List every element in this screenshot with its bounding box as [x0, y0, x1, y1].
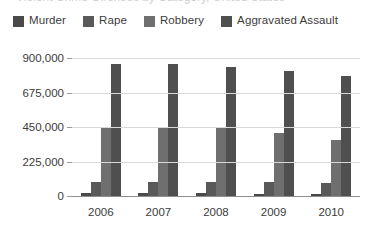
x-axis-tick-label: 2007: [130, 200, 188, 226]
y-axis-tick-label: 0: [58, 190, 64, 202]
bar-rape-2007[interactable]: [148, 182, 158, 196]
x-axis-tick-label: 2006: [72, 200, 130, 226]
y-axis-tick-mark: [67, 127, 72, 128]
y-axis: 0225,000450,000675,000900,000: [0, 40, 72, 200]
y-axis-tick-mark: [67, 196, 72, 197]
legend-swatch-icon: [13, 16, 24, 27]
gridline: [72, 127, 360, 128]
legend-label: Rape: [99, 15, 127, 27]
bar-aggravated-assault-2007[interactable]: [168, 64, 178, 196]
y-axis-tick-label: 675,000: [22, 87, 64, 99]
bar-rape-2009[interactable]: [264, 182, 274, 196]
y-axis-tick-label: 225,000: [22, 156, 64, 168]
bar-rape-2010[interactable]: [321, 183, 331, 196]
legend-swatch-icon: [83, 16, 94, 27]
y-axis-tick-mark: [67, 162, 72, 163]
bar-murder-2010[interactable]: [311, 194, 321, 196]
y-axis-tick-mark: [67, 93, 72, 94]
legend-swatch-icon: [221, 16, 232, 27]
legend-label: Robbery: [160, 15, 204, 27]
legend-label: Aggravated Assault: [237, 15, 338, 27]
bar-aggravated-assault-2009[interactable]: [284, 71, 294, 196]
x-axis-tick-label: 2010: [302, 200, 360, 226]
y-axis-tick-label: 900,000: [22, 52, 64, 64]
gridline: [72, 93, 360, 94]
bar-aggravated-assault-2008[interactable]: [226, 67, 236, 196]
bar-rape-2008[interactable]: [206, 182, 216, 196]
bar-murder-2008[interactable]: [196, 193, 206, 196]
y-axis-tick-mark: [67, 58, 72, 59]
bar-murder-2009[interactable]: [254, 194, 264, 196]
gridline: [72, 162, 360, 163]
chart-legend: Murder Rape Robbery Aggravated Assault: [0, 10, 373, 32]
bar-aggravated-assault-2010[interactable]: [341, 76, 351, 196]
plot-wrapper: 0225,000450,000675,000900,000 2006200720…: [0, 40, 373, 232]
bar-chart: Violent Crime Offenses by Category, Unit…: [0, 0, 373, 232]
cropped-title-strip: Violent Crime Offenses by Category, Unit…: [0, 0, 373, 7]
bar-rape-2006[interactable]: [91, 182, 101, 196]
bar-robbery-2010[interactable]: [331, 140, 341, 196]
x-axis-tick-label: 2008: [187, 200, 245, 226]
legend-label: Murder: [29, 15, 66, 27]
bar-aggravated-assault-2006[interactable]: [111, 64, 121, 196]
y-axis-tick-label: 450,000: [22, 121, 64, 133]
chart-title: Violent Crime Offenses by Category, Unit…: [16, 0, 285, 4]
gridline: [72, 58, 360, 59]
legend-item-murder[interactable]: Murder: [13, 15, 66, 27]
bar-murder-2007[interactable]: [138, 193, 148, 196]
legend-item-aggravated-assault[interactable]: Aggravated Assault: [221, 15, 338, 27]
x-axis-tick-label: 2009: [245, 200, 303, 226]
legend-item-robbery[interactable]: Robbery: [144, 15, 204, 27]
plot-area: [72, 58, 360, 197]
legend-item-rape[interactable]: Rape: [83, 15, 127, 27]
bar-murder-2006[interactable]: [81, 193, 91, 196]
bar-robbery-2009[interactable]: [274, 133, 284, 196]
x-axis: 20062007200820092010: [72, 200, 360, 226]
legend-swatch-icon: [144, 16, 155, 27]
